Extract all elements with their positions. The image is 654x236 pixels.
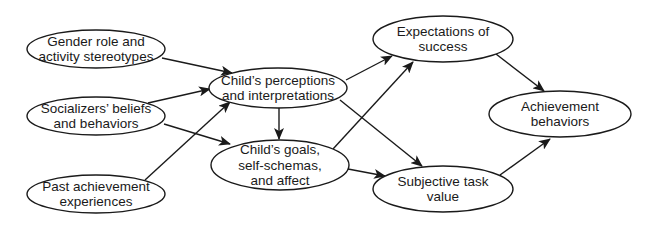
node-label: Gender role and [47,34,145,49]
node-value: Subjective taskvalue [373,166,513,212]
arrow-expectations-to-behaviors [496,54,544,91]
node-label: activity stereotypes [39,49,154,64]
node-label: Socializers’ beliefs [41,101,152,116]
arrow-goals-to-value [348,169,385,176]
achievement-model-diagram: Gender role andactivity stereotypesSocia… [0,0,654,236]
node-perceptions: Child’s perceptionsand interpretations [209,68,347,108]
node-label: Past achievement [42,179,150,194]
node-label: Child’s goals, [240,142,320,157]
node-label: experiences [60,194,133,209]
arrow-socializers-to-perceptions [148,89,210,103]
node-gender: Gender role andactivity stereotypes [27,30,165,68]
node-goals: Child’s goals,self-schemas,and affect [211,140,349,190]
node-label: Child’s perceptions [221,73,335,88]
node-label: success [419,39,468,54]
node-behaviors: Achievementbehaviors [489,91,631,137]
arrow-goals-to-expectations [333,62,413,149]
node-label: Subjective task [398,174,489,189]
nodes-layer: Gender role andactivity stereotypesSocia… [27,16,631,213]
node-past: Past achievementexperiences [27,175,165,213]
node-label: and affect [250,173,309,188]
node-label: Achievement [521,99,599,114]
node-label: behaviors [531,114,590,129]
node-label: and behaviors [54,116,139,131]
node-label: Expectations of [397,24,490,39]
node-label: and interpretations [222,88,334,103]
node-label: value [427,189,459,204]
node-expectations: Expectations ofsuccess [373,16,513,62]
node-socializers: Socializers’ beliefsand behaviors [27,97,165,135]
arrow-gender-to-perceptions [162,58,232,73]
arrow-socializers-to-goals [164,124,230,144]
arrow-perceptions-to-value [340,100,422,166]
arrow-perceptions-to-expectations [346,56,392,80]
node-label: self-schemas, [238,158,321,173]
arrow-value-to-behaviors [500,139,550,175]
